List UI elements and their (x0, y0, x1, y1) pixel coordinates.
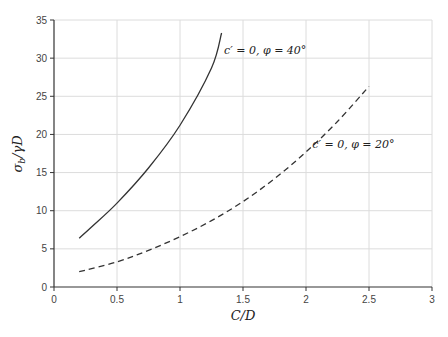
curve-annotation: c′ = 0, φ = 20° (312, 138, 394, 151)
curve-annotation: c′ = 0, φ = 40° (224, 44, 306, 57)
series-line-phi-40 (79, 33, 221, 238)
y-tick-label: 25 (36, 91, 48, 102)
y-tick-label: 20 (36, 129, 48, 140)
gridlines (54, 20, 432, 287)
y-tick-label: 15 (36, 167, 48, 178)
x-tick-label: 2.5 (362, 294, 376, 305)
x-tick-label: 1 (177, 294, 183, 305)
x-tick-label: 1.5 (236, 294, 250, 305)
y-tick-label: 0 (41, 282, 47, 293)
axes (50, 20, 432, 291)
x-tick-labels: 00.511.522.53 (51, 294, 435, 305)
y-tick-label: 10 (36, 205, 48, 216)
chart: 00.511.522.53 05101520253035 c′ = 0, φ =… (0, 0, 448, 337)
y-tick-labels: 05101520253035 (36, 15, 48, 293)
y-tick-label: 5 (41, 243, 47, 254)
y-axis-label: σb/γD (10, 135, 27, 173)
y-tick-label: 35 (36, 15, 48, 26)
x-tick-label: 2 (303, 294, 309, 305)
x-tick-label: 0.5 (110, 294, 124, 305)
x-axis-label: C/D (231, 308, 256, 323)
series-line-phi-20 (79, 86, 369, 271)
y-tick-label: 30 (36, 53, 48, 64)
x-tick-label: 3 (429, 294, 435, 305)
x-tick-label: 0 (51, 294, 57, 305)
series-lines (79, 33, 369, 272)
